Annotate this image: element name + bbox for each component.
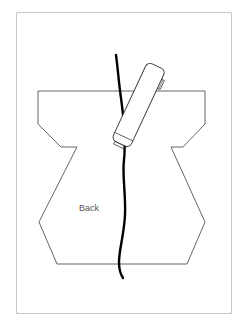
- back-label: Back: [79, 203, 99, 213]
- diagram-canvas: [0, 0, 246, 320]
- cord: [116, 55, 125, 278]
